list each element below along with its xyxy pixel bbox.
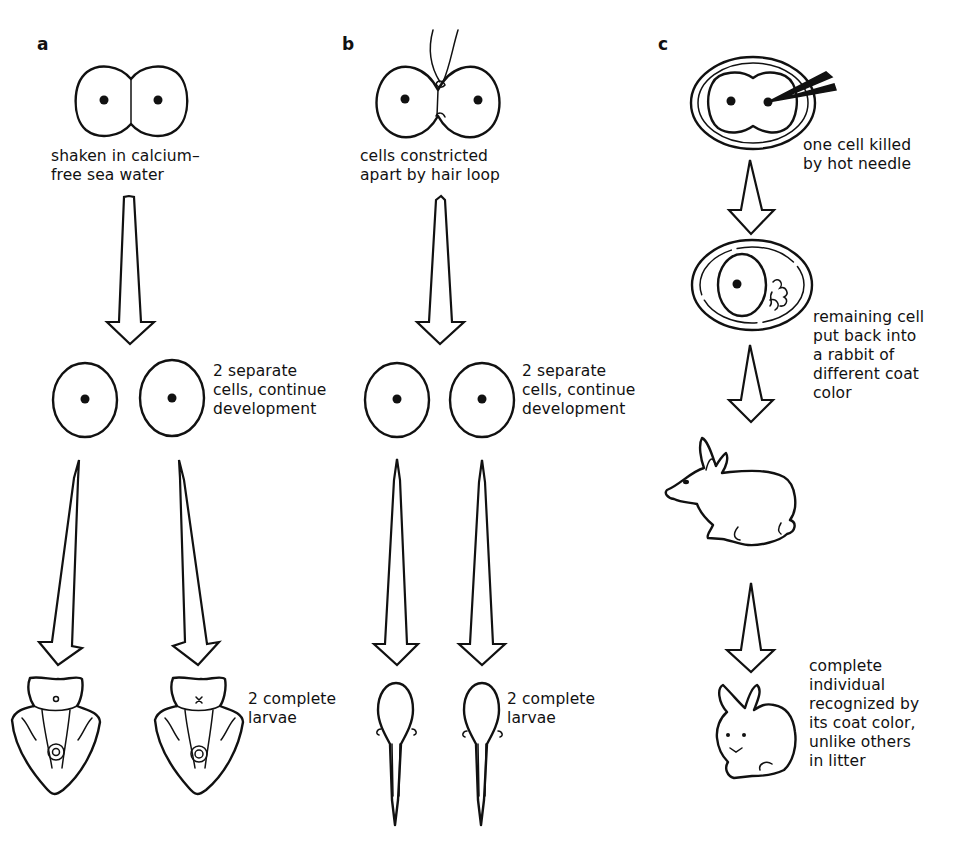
panel-c-step2-caption: remaining cell put back into a rabbit of… <box>813 308 924 403</box>
cell-icon <box>365 363 429 437</box>
panel-a-step3-caption: 2 complete larvae <box>248 690 336 728</box>
rabbit-icon <box>717 685 796 778</box>
panel-b-step3-caption: 2 complete larvae <box>507 690 595 728</box>
panel-label-b: b <box>342 34 354 54</box>
tadpole-icon <box>377 683 416 825</box>
panel-label-a: a <box>37 34 48 54</box>
rabbit-icon <box>666 438 795 545</box>
larva-icon <box>12 677 100 794</box>
down-arrow-icon <box>727 583 774 672</box>
larva-icon <box>155 677 243 794</box>
panel-label-c: c <box>658 34 668 54</box>
cell-icon <box>53 363 117 437</box>
panel-a-step2-caption: 2 separate cells, continue development <box>213 362 327 419</box>
cell-icon <box>140 360 204 436</box>
down-arrow-icon <box>417 196 464 344</box>
panel-c-step3-caption: complete individual recognized by its co… <box>809 657 919 771</box>
down-arrow-icon <box>173 460 219 665</box>
down-arrow-icon <box>374 459 418 665</box>
panel-b-step2-caption: 2 separate cells, continue development <box>522 362 636 419</box>
down-arrow-icon <box>729 345 773 422</box>
cell-icon <box>450 363 514 437</box>
cell-icon <box>692 240 812 330</box>
down-arrow-icon <box>459 460 505 665</box>
two-cell-embryo-icon <box>691 57 815 149</box>
hot-needle-icon <box>768 72 836 102</box>
two-cell-embryo-icon <box>76 67 188 136</box>
panel-b-step1-caption: cells constricted apart by hair loop <box>360 147 500 185</box>
down-arrow-icon <box>39 460 82 665</box>
down-arrow-icon <box>729 160 774 234</box>
panel-a-step1-caption: shaken in calcium– free sea water <box>51 147 200 185</box>
hair-loop-icon <box>430 30 458 117</box>
tadpole-icon <box>463 683 502 825</box>
down-arrow-icon <box>107 196 154 344</box>
panel-c-step1-caption: one cell killed by hot needle <box>803 136 911 174</box>
